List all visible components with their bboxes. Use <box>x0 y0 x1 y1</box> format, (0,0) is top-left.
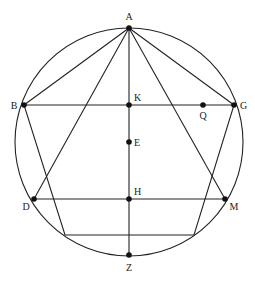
point-k <box>126 102 132 108</box>
point-h <box>126 196 132 202</box>
point-e <box>126 139 132 145</box>
label-e: E <box>134 137 140 148</box>
point-q <box>200 102 206 108</box>
segment <box>129 28 225 199</box>
point-d <box>31 196 37 202</box>
label-g: G <box>240 100 247 111</box>
label-d: D <box>22 201 29 212</box>
segment <box>34 28 129 199</box>
geometric-diagram: ABKQGEDHMZ <box>0 0 255 284</box>
label-m: M <box>230 201 239 212</box>
label-q: Q <box>199 110 207 121</box>
point-b <box>21 102 27 108</box>
point-g <box>231 102 237 108</box>
label-z: Z <box>126 262 132 273</box>
label-a: A <box>125 11 133 22</box>
point-z <box>126 252 132 258</box>
label-b: B <box>11 100 18 111</box>
label-k: K <box>134 92 142 103</box>
point-m <box>222 196 228 202</box>
label-h: H <box>134 186 141 197</box>
point-a <box>126 25 132 31</box>
